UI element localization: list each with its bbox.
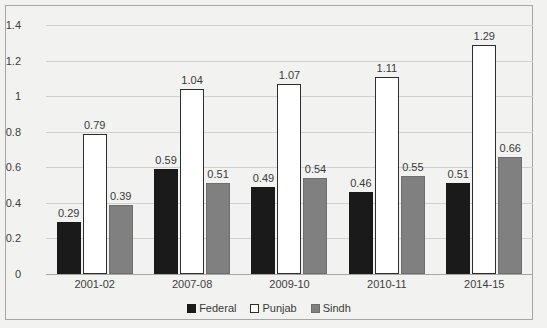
bar-sindh[interactable] <box>303 178 327 274</box>
bar-punjab[interactable] <box>83 134 107 275</box>
y-axis-tick-label: 1.4 <box>0 19 21 31</box>
bar-group: 0.491.070.54 <box>241 25 338 274</box>
y-axis-tick-label: 0.8 <box>0 126 21 138</box>
bar-punjab[interactable] <box>277 84 301 274</box>
bar-item: 0.49 <box>251 25 275 274</box>
bar-item: 0.55 <box>401 25 425 274</box>
bar-item: 1.11 <box>375 25 399 274</box>
y-axis-tick-label: 0.4 <box>0 197 21 209</box>
bar-value-label: 0.55 <box>402 161 423 174</box>
legend-swatch-icon <box>187 304 196 313</box>
plot-area: 00.20.40.60.811.21.40.290.790.390.591.04… <box>46 25 533 274</box>
gridline <box>46 274 533 275</box>
legend-swatch-icon <box>311 304 320 313</box>
legend-label: Sindh <box>323 302 351 314</box>
bar-sindh[interactable] <box>401 176 425 274</box>
bar-item: 1.04 <box>180 25 204 274</box>
bar-federal[interactable] <box>251 187 275 274</box>
y-axis-tick-label: 0.2 <box>0 232 21 244</box>
bar-value-label: 0.54 <box>305 163 326 176</box>
y-axis-tick-label: 1.2 <box>0 55 21 67</box>
bar-group: 0.290.790.39 <box>46 25 143 274</box>
bar-item: 0.46 <box>349 25 373 274</box>
bar-federal[interactable] <box>446 183 470 274</box>
bar-value-label: 0.79 <box>84 119 105 132</box>
bar-punjab[interactable] <box>472 45 496 274</box>
x-axis-category-label: 2010-11 <box>338 278 435 290</box>
bar-sindh[interactable] <box>498 157 522 274</box>
bar-value-label: 0.46 <box>350 177 371 190</box>
bar-item: 0.29 <box>57 25 81 274</box>
bar-group-bars: 0.290.790.39 <box>46 25 143 274</box>
bar-federal[interactable] <box>154 169 178 274</box>
bar-value-label: 0.59 <box>155 154 176 167</box>
bar-punjab[interactable] <box>180 89 204 274</box>
bar-group: 0.591.040.51 <box>143 25 240 274</box>
legend-swatch-icon <box>250 304 259 313</box>
bar-value-label: 0.39 <box>110 190 131 203</box>
y-axis-tick-label: 0.6 <box>0 161 21 173</box>
bar-punjab[interactable] <box>375 77 399 274</box>
bar-federal[interactable] <box>349 192 373 274</box>
bar-item: 0.51 <box>446 25 470 274</box>
legend-label: Punjab <box>262 302 296 314</box>
bar-item: 0.79 <box>83 25 107 274</box>
legend-item-sindh[interactable]: Sindh <box>311 302 351 314</box>
bar-federal[interactable] <box>57 222 81 274</box>
bar-value-label: 1.11 <box>377 62 398 75</box>
y-axis-tick-label: 0 <box>0 268 21 280</box>
x-axis-category-label: 2014-15 <box>436 278 533 290</box>
bar-sindh[interactable] <box>109 205 133 274</box>
bar-group-bars: 0.511.290.66 <box>436 25 533 274</box>
legend-item-federal[interactable]: Federal <box>187 302 236 314</box>
bar-item: 0.39 <box>109 25 133 274</box>
x-axis-category-label: 2009-10 <box>241 278 338 290</box>
chart-container: 00.20.40.60.811.21.40.290.790.390.591.04… <box>5 5 533 320</box>
x-axis-category-label: 2001-02 <box>46 278 143 290</box>
bar-sindh[interactable] <box>206 183 230 274</box>
bar-value-label: 0.49 <box>253 172 274 185</box>
bar-group-bars: 0.461.110.55 <box>338 25 435 274</box>
bar-item: 0.54 <box>303 25 327 274</box>
chart-legend: FederalPunjabSindh <box>6 302 532 314</box>
bar-item: 1.07 <box>277 25 301 274</box>
legend-item-punjab[interactable]: Punjab <box>250 302 296 314</box>
bar-value-label: 0.51 <box>448 168 469 181</box>
bar-value-label: 0.51 <box>207 168 228 181</box>
bar-group-bars: 0.591.040.51 <box>143 25 240 274</box>
bar-value-label: 1.04 <box>181 74 202 87</box>
bar-item: 1.29 <box>472 25 496 274</box>
bar-item: 0.51 <box>206 25 230 274</box>
y-axis-tick-label: 1 <box>0 90 21 102</box>
bar-value-label: 1.07 <box>279 69 300 82</box>
bar-group-bars: 0.491.070.54 <box>241 25 338 274</box>
bar-item: 0.66 <box>498 25 522 274</box>
bar-value-label: 1.29 <box>474 30 495 43</box>
bar-group: 0.461.110.55 <box>338 25 435 274</box>
x-axis-category-label: 2007-08 <box>143 278 240 290</box>
bar-value-label: 0.66 <box>500 142 521 155</box>
bar-item: 0.59 <box>154 25 178 274</box>
legend-label: Federal <box>199 302 236 314</box>
bar-value-label: 0.29 <box>58 207 79 220</box>
bar-group: 0.511.290.66 <box>436 25 533 274</box>
